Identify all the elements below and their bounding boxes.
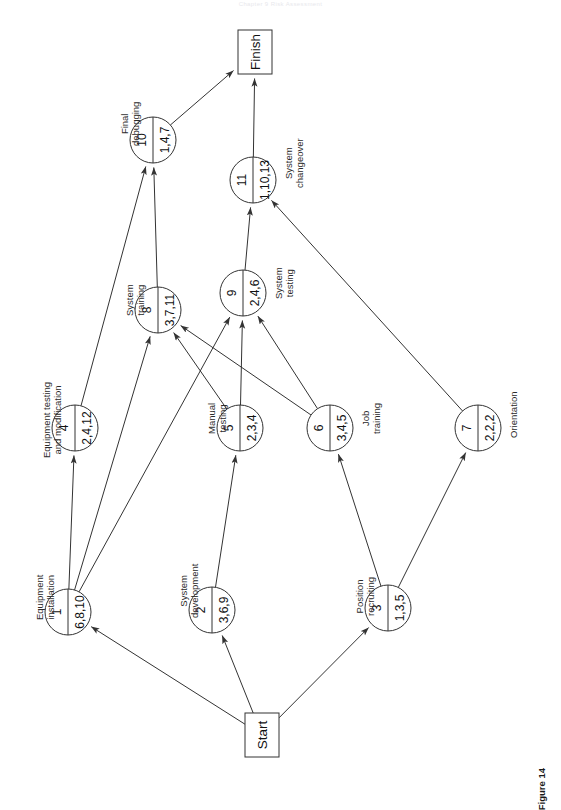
node-caption-2: System development	[178, 564, 200, 618]
edge-3-to-6	[338, 454, 381, 586]
edge-6-to-9	[258, 316, 318, 409]
edge-start-to-2	[222, 636, 253, 713]
figure-caption: Figure 14	[536, 768, 547, 810]
edge-3-to-7	[398, 453, 465, 588]
edge-8-to-10	[154, 167, 158, 287]
node-number-11: 11	[235, 174, 249, 186]
edge-1-to-4	[69, 455, 74, 589]
edge-10-to-finish	[170, 71, 233, 125]
node-estimate-11: 1,10,13	[258, 160, 272, 200]
edge-7-to-11	[271, 200, 462, 411]
node-estimate-10: 1,4,7	[158, 127, 172, 154]
terminals-layer	[238, 30, 279, 757]
node-caption-7: Orientation	[508, 392, 519, 438]
node-estimate-4: 2,4,12	[80, 411, 94, 444]
node-caption-10: Final debugging	[119, 102, 141, 146]
node-caption-1: Equipment installation	[34, 575, 56, 620]
node-caption-6: Job training	[360, 403, 382, 434]
node-caption-8: System training	[124, 284, 146, 316]
node-estimate-8: 3,7,11	[163, 294, 177, 326]
node-estimate-3: 1,3,5	[393, 595, 407, 622]
node-estimate-9: 2,4,6	[248, 280, 262, 307]
edge-9-to-11	[245, 207, 251, 270]
node-estimate-1: 6,8,10	[73, 595, 87, 628]
edge-11-to-finish	[253, 79, 254, 158]
node-estimate-6: 3,4,5	[335, 415, 349, 442]
edge-2-to-5	[215, 455, 235, 587]
nodes-layer	[45, 117, 501, 635]
edge-1-to-8	[75, 336, 151, 590]
node-caption-5: Manual testing	[206, 403, 228, 434]
node-number-7: 7	[460, 425, 474, 432]
node-caption-11: System changeover	[283, 138, 305, 188]
node-estimate-5: 2,3,4	[245, 415, 259, 442]
node-estimate-2: 3,6,9	[217, 597, 231, 624]
node-estimate-7: 2,2,2	[483, 415, 497, 442]
edge-1-to-9	[79, 317, 230, 592]
node-caption-3: Position recruiting	[354, 577, 376, 616]
node-caption-4: Equipment testing and modification	[41, 382, 63, 458]
terminal-label-finish: Finish	[248, 34, 263, 70]
edge-5-to-9	[241, 320, 243, 405]
edge-start-to-3	[279, 628, 369, 718]
node-number-6: 6	[312, 425, 326, 432]
edge-5-to-8	[174, 333, 227, 410]
edge-start-to-1	[91, 627, 245, 724]
node-caption-9: System testing	[273, 267, 295, 299]
terminal-label-start: Start	[255, 721, 270, 750]
node-number-9: 9	[225, 290, 239, 297]
